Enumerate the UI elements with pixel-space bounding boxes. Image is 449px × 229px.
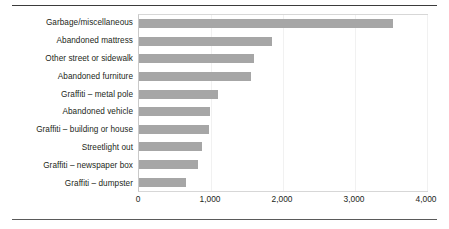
category-axis-labels: Garbage/miscellaneous Abandoned mattress…	[0, 14, 138, 192]
category-label: Graffiti – newspaper box	[0, 156, 133, 174]
bar	[139, 107, 210, 116]
bar	[139, 142, 202, 151]
top-divider	[12, 5, 437, 6]
bar	[139, 125, 209, 134]
bar	[139, 37, 272, 46]
table-row	[139, 15, 427, 33]
table-row	[139, 68, 427, 86]
category-label: Graffiti – metal pole	[0, 85, 133, 103]
bar-series	[139, 15, 427, 191]
gridline	[427, 15, 428, 191]
category-label: Streetlight out	[0, 139, 133, 157]
bar	[139, 19, 393, 28]
bar	[139, 54, 254, 63]
bar	[139, 178, 186, 187]
value-axis-ticks: 01,0002,0003,0004,000	[138, 194, 428, 210]
bar	[139, 90, 218, 99]
table-row	[139, 121, 427, 139]
axis-tick-label: 4,000	[416, 194, 437, 204]
plot-area	[138, 14, 428, 192]
table-row	[139, 156, 427, 174]
chart-body: Garbage/miscellaneous Abandoned mattress…	[0, 14, 449, 192]
bottom-divider	[12, 219, 437, 220]
table-row	[139, 173, 427, 191]
category-label: Abandoned furniture	[0, 67, 133, 85]
axis-tick-label: 3,000	[344, 194, 365, 204]
axis-tick-label: 1,000	[200, 194, 221, 204]
bar	[139, 72, 251, 81]
axis-tick-label: 0	[136, 194, 141, 204]
bar	[139, 160, 198, 169]
table-row	[139, 33, 427, 51]
category-label: Graffiti – building or house	[0, 121, 133, 139]
table-row	[139, 50, 427, 68]
bar-chart-figure: Garbage/miscellaneous Abandoned mattress…	[0, 0, 449, 229]
category-label: Abandoned vehicle	[0, 103, 133, 121]
table-row	[139, 103, 427, 121]
category-label: Garbage/miscellaneous	[0, 14, 133, 32]
table-row	[139, 138, 427, 156]
category-label: Other street or sidewalk	[0, 50, 133, 68]
table-row	[139, 85, 427, 103]
category-label: Abandoned mattress	[0, 32, 133, 50]
axis-tick-label: 2,000	[272, 194, 293, 204]
category-label: Graffiti – dumpster	[0, 174, 133, 192]
